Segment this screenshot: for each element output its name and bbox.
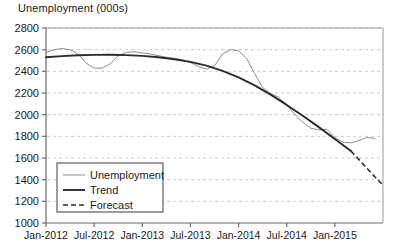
- x-tick-label: Jul-2013: [170, 229, 210, 241]
- y-tick-label: 1200: [15, 195, 39, 207]
- x-tick-label: Jul-2012: [74, 229, 114, 241]
- y-tick-label: 1800: [15, 130, 39, 142]
- x-tick-label: Jan-2013: [120, 229, 164, 241]
- chart-svg: 1000120014001600180020002200240026002800…: [0, 0, 407, 252]
- x-axis: Jan-2012Jul-2012Jan-2013Jul-2013Jan-2014…: [24, 223, 357, 241]
- y-axis: 1000120014001600180020002200240026002800: [15, 22, 46, 229]
- chart-container: Unemployment (000s) 10001200140016001800…: [0, 0, 407, 252]
- legend-label-trend: Trend: [90, 184, 118, 196]
- y-tick-label: 1400: [15, 174, 39, 186]
- legend-label-forecast: Forecast: [90, 199, 133, 211]
- y-tick-label: 2000: [15, 109, 39, 121]
- y-tick-label: 2200: [15, 87, 39, 99]
- y-tick-label: 1000: [15, 217, 39, 229]
- y-tick-label: 2800: [15, 22, 39, 34]
- legend-label-unemployment: Unemployment: [90, 169, 164, 181]
- x-tick-label: Jan-2012: [24, 229, 68, 241]
- y-tick-label: 1600: [15, 152, 39, 164]
- x-tick-label: Jan-2015: [313, 229, 357, 241]
- x-tick-label: Jul-2014: [267, 229, 307, 241]
- y-tick-label: 2600: [15, 44, 39, 56]
- y-tick-label: 2400: [15, 65, 39, 77]
- x-tick-label: Jan-2014: [217, 229, 261, 241]
- legend: UnemploymentTrendForecast: [57, 163, 164, 212]
